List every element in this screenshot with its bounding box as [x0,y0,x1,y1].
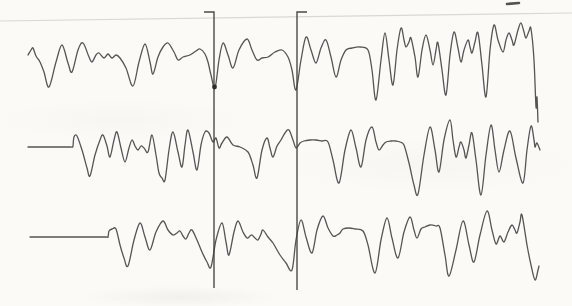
scan-page [0,0,572,306]
scan-rule-line [0,13,572,21]
event-marker-1 [204,12,214,288]
ink-smudge [507,3,519,4]
trace-1-path [28,23,538,122]
ink-blob [212,85,217,90]
trace-2-path [28,120,540,195]
trace-3-path [30,211,539,280]
waveform-recording-chart [0,0,572,306]
